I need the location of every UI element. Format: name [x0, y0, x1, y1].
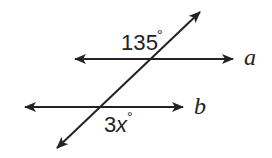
- parallel-lines-diagram: 135 ° 3 x ° a b: [0, 0, 272, 158]
- degree-symbol-top: °: [157, 27, 163, 43]
- line-label-a: a: [244, 44, 256, 70]
- angle-label-135: 135: [121, 30, 158, 55]
- angle-label-3x-number: 3: [104, 112, 116, 137]
- line-label-b: b: [194, 93, 206, 119]
- degree-symbol-bottom: °: [127, 109, 133, 125]
